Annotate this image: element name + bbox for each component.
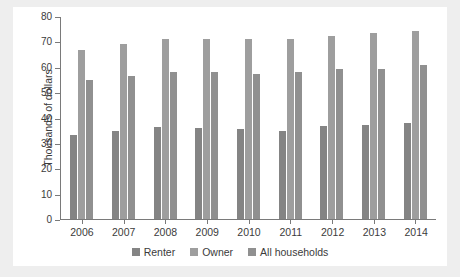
bar-owner bbox=[162, 39, 169, 219]
bar-owner bbox=[78, 50, 85, 219]
x-axis-tick-mark bbox=[415, 219, 416, 224]
y-axis-tick-mark bbox=[55, 93, 60, 94]
bar-owner bbox=[370, 33, 377, 219]
bar-renter bbox=[362, 125, 369, 219]
legend-entry-all-households[interactable]: All households bbox=[248, 246, 328, 258]
bar-all-households bbox=[378, 69, 385, 219]
y-axis-tick-mark bbox=[55, 17, 60, 18]
x-axis-label: 2011 bbox=[270, 226, 312, 238]
bar-group bbox=[61, 17, 103, 219]
x-axis-label: 2006 bbox=[61, 226, 103, 238]
bar-group bbox=[186, 17, 228, 219]
bar-all-households bbox=[211, 72, 218, 219]
y-axis-tick-label: 30 bbox=[41, 137, 52, 150]
x-axis-label: 2013 bbox=[353, 226, 395, 238]
legend-swatch-icon bbox=[190, 248, 198, 256]
y-axis-tick-mark bbox=[55, 169, 60, 170]
x-axis-tick-mark bbox=[124, 219, 125, 224]
y-axis-tick-label: 10 bbox=[41, 188, 52, 201]
bar-owner bbox=[120, 44, 127, 219]
y-axis-tick-label: 50 bbox=[41, 86, 52, 99]
x-axis-tick-mark bbox=[249, 219, 250, 224]
x-axis-label: 2009 bbox=[186, 226, 228, 238]
bar-group bbox=[103, 17, 145, 219]
x-axis-tick-mark bbox=[165, 219, 166, 224]
y-axis-tick-mark bbox=[55, 144, 60, 145]
legend-label: All households bbox=[260, 246, 328, 258]
y-axis-tick-label: 40 bbox=[41, 112, 52, 125]
legend-label: Owner bbox=[202, 246, 233, 258]
bar-all-households bbox=[420, 65, 427, 219]
bar-owner bbox=[412, 31, 419, 219]
bar-renter bbox=[112, 131, 119, 219]
x-axis-labels: 200620072008200920102011201220132014 bbox=[61, 226, 437, 238]
bar-renter bbox=[154, 127, 161, 219]
bar-group bbox=[269, 17, 311, 219]
bar-all-households bbox=[170, 72, 177, 219]
x-axis-label: 2008 bbox=[145, 226, 187, 238]
x-axis-label: 2012 bbox=[312, 226, 354, 238]
bar-group bbox=[228, 17, 270, 219]
y-axis-tick-label: 20 bbox=[41, 162, 52, 175]
legend-swatch-icon bbox=[248, 248, 256, 256]
bar-groups bbox=[61, 17, 436, 219]
y-axis-tick-label: 60 bbox=[41, 61, 52, 74]
y-axis-tick-label: 0 bbox=[46, 213, 52, 226]
bar-renter bbox=[404, 123, 411, 219]
bar-all-households bbox=[253, 74, 260, 219]
bar-renter bbox=[237, 129, 244, 219]
bar-renter bbox=[279, 131, 286, 219]
x-axis-label: 2010 bbox=[228, 226, 270, 238]
bar-owner bbox=[245, 39, 252, 219]
bar-group bbox=[144, 17, 186, 219]
x-axis-label: 2007 bbox=[103, 226, 145, 238]
x-axis-tick-mark bbox=[290, 219, 291, 224]
bar-all-households bbox=[86, 80, 93, 219]
x-axis-tick-mark bbox=[207, 219, 208, 224]
chart-figure: Thousands of dollars 01020304050607080 2… bbox=[13, 7, 447, 266]
x-axis-tick-mark bbox=[82, 219, 83, 224]
bar-all-households bbox=[128, 76, 135, 219]
bar-owner bbox=[287, 39, 294, 219]
bar-renter bbox=[70, 135, 77, 219]
bar-group bbox=[353, 17, 395, 219]
legend-entry-renter[interactable]: Renter bbox=[132, 246, 176, 258]
legend-swatch-icon bbox=[132, 248, 140, 256]
bar-all-households bbox=[295, 72, 302, 219]
y-axis-tick-mark bbox=[55, 119, 60, 120]
bar-owner bbox=[328, 36, 335, 219]
y-axis-tick-mark bbox=[55, 220, 60, 221]
bar-renter bbox=[320, 126, 327, 219]
x-axis-tick-mark bbox=[374, 219, 375, 224]
x-axis-label: 2014 bbox=[395, 226, 437, 238]
bar-all-households bbox=[336, 69, 343, 219]
bar-group bbox=[394, 17, 436, 219]
x-axis-tick-mark bbox=[332, 219, 333, 224]
bar-owner bbox=[203, 39, 210, 219]
legend-label: Renter bbox=[144, 246, 176, 258]
y-axis-tick-label: 80 bbox=[41, 10, 52, 23]
y-axis-tick-mark bbox=[55, 42, 60, 43]
chart-legend: RenterOwnerAll households bbox=[13, 246, 447, 258]
legend-entry-owner[interactable]: Owner bbox=[190, 246, 233, 258]
bar-group bbox=[311, 17, 353, 219]
plot-area: Thousands of dollars 01020304050607080 bbox=[60, 17, 436, 220]
y-axis-tick-mark bbox=[55, 68, 60, 69]
bar-renter bbox=[195, 128, 202, 219]
y-axis-tick-mark bbox=[55, 195, 60, 196]
y-axis-tick-label: 70 bbox=[41, 35, 52, 48]
